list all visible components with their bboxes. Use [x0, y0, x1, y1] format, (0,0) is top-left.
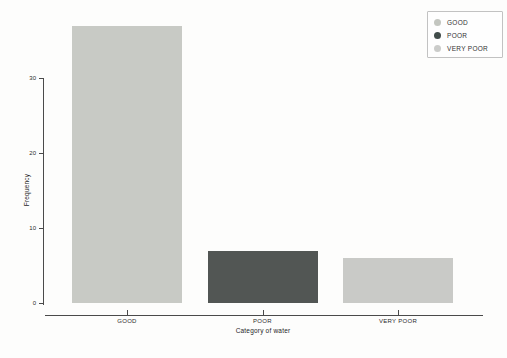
y-tick-label-30: 30 [20, 75, 36, 82]
legend-swatch-very-poor [434, 45, 441, 52]
legend: GOODPOORVERY POOR [427, 11, 503, 58]
legend-item-good: GOOD [434, 16, 502, 29]
x-tick-label-good: GOOD [87, 318, 167, 325]
x-tick-very-poor [398, 310, 399, 315]
legend-label-very-poor: VERY POOR [447, 45, 488, 52]
y-axis-title: Frequency [23, 174, 30, 207]
y-tick-30 [39, 78, 44, 79]
x-tick-poor [263, 310, 264, 315]
bar-chart: Frequency Category of water 0102030GOODP… [0, 0, 507, 358]
legend-swatch-good [434, 19, 441, 26]
y-axis-line [43, 78, 44, 305]
y-tick-label-20: 20 [20, 150, 36, 157]
x-tick-good [127, 310, 128, 315]
legend-swatch-poor [434, 32, 441, 39]
bar-good [72, 26, 182, 304]
y-tick-label-10: 10 [20, 225, 36, 232]
y-tick-20 [39, 153, 44, 154]
legend-item-very-poor: VERY POOR [434, 42, 502, 55]
y-tick-0 [39, 303, 44, 304]
x-tick-label-very-poor: VERY POOR [358, 318, 438, 325]
x-axis-line [45, 315, 483, 316]
legend-label-poor: POOR [447, 32, 467, 39]
x-axis-title: Category of water [163, 327, 363, 334]
bar-very-poor [343, 258, 453, 303]
y-tick-label-0: 0 [20, 300, 36, 307]
bar-poor [208, 251, 318, 304]
x-tick-label-poor: POOR [223, 318, 303, 325]
y-tick-10 [39, 228, 44, 229]
legend-label-good: GOOD [447, 19, 468, 26]
legend-item-poor: POOR [434, 29, 502, 42]
